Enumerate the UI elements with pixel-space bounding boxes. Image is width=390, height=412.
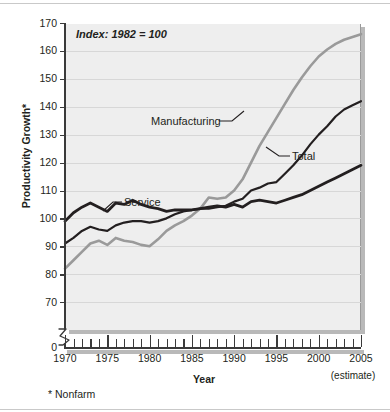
x-tick-minor [285,339,286,347]
series-line-manufacturing [65,34,361,268]
y-axis-title: Productivity Growth* [20,86,32,226]
x-tick-major [192,335,193,347]
y-tick [60,23,65,24]
x-tick-minor [226,339,227,347]
x-tick-minor [200,339,201,347]
x-tick-label: 1980 [128,352,172,364]
x-tick-minor [260,339,261,347]
x-tick-minor [133,339,134,347]
x-tick-minor [175,339,176,347]
y-tick-label: 170 [24,18,57,29]
series-label-manufacturing: Manufacturing [151,115,221,127]
x-tick-label: 2000 [297,352,341,364]
x-tick-minor [217,339,218,347]
y-tick [60,246,65,247]
y-tick-label: 90 [24,241,57,252]
x-axis-title: Year [164,373,244,385]
top-divider [0,3,390,4]
y-tick-label: 70 [24,297,57,308]
y-tick [60,302,65,303]
x-tick-minor [116,339,117,347]
x-tick-minor [183,339,184,347]
x-tick-minor [124,339,125,347]
y-tick-label: 160 [24,45,57,56]
series-label-total: Total [292,150,315,162]
x-tick-label: 1990 [212,352,256,364]
x-tick-label: 1985 [170,352,214,364]
x-tick-minor [209,339,210,347]
y-tick [60,79,65,80]
y-axis-line [64,23,66,330]
x-tick-minor [336,339,337,347]
x-tick-major [361,335,362,347]
y-tick [60,135,65,136]
x-tick-minor [99,339,100,347]
x-tick-minor [302,339,303,347]
x-tick-label: 1995 [254,352,298,364]
bottom-divider [0,409,390,410]
x-tick-minor [251,339,252,347]
x-tick-minor [353,339,354,347]
footnote: * Nonfarm [48,388,95,400]
y-tick-label: 0 [24,342,57,353]
x-tick-minor [268,339,269,347]
x-tick-label: 1970 [43,352,87,364]
x-tick-minor [243,339,244,347]
y-tick-label: 150 [24,73,57,84]
y-tick [60,51,65,52]
x-axis-line [64,347,361,349]
x-tick-minor [310,339,311,347]
x-tick-label: 1975 [85,352,129,364]
y-tick [60,274,65,275]
x-tick-major [319,335,320,347]
x-tick-minor [293,339,294,347]
x-tick-major [107,335,108,347]
index-note: Index: 1982 = 100 [76,28,167,40]
x-tick-minor [141,339,142,347]
y-tick [60,163,65,164]
series-layer [65,23,361,330]
x-tick-minor [167,339,168,347]
x-tick-minor [327,339,328,347]
chart-figure: 1701601501401301201101009080700 19701975… [0,0,390,412]
series-line-service [65,165,361,221]
x-tick-major [234,335,235,347]
y-tick [60,218,65,219]
x-tick-minor [344,339,345,347]
x-tick-minor [74,339,75,347]
plot-area [65,23,361,330]
x-tick-label: 2005 [339,352,383,364]
y-tick [60,191,65,192]
estimate-note: (estimate) [318,370,388,381]
series-label-service: Service [124,196,161,208]
x-tick-major [65,335,66,347]
x-tick-major [276,335,277,347]
y-tick [60,107,65,108]
x-tick-minor [158,339,159,347]
x-tick-major [150,335,151,347]
y-tick-label: 80 [24,269,57,280]
x-tick-minor [82,339,83,347]
x-tick-minor [90,339,91,347]
